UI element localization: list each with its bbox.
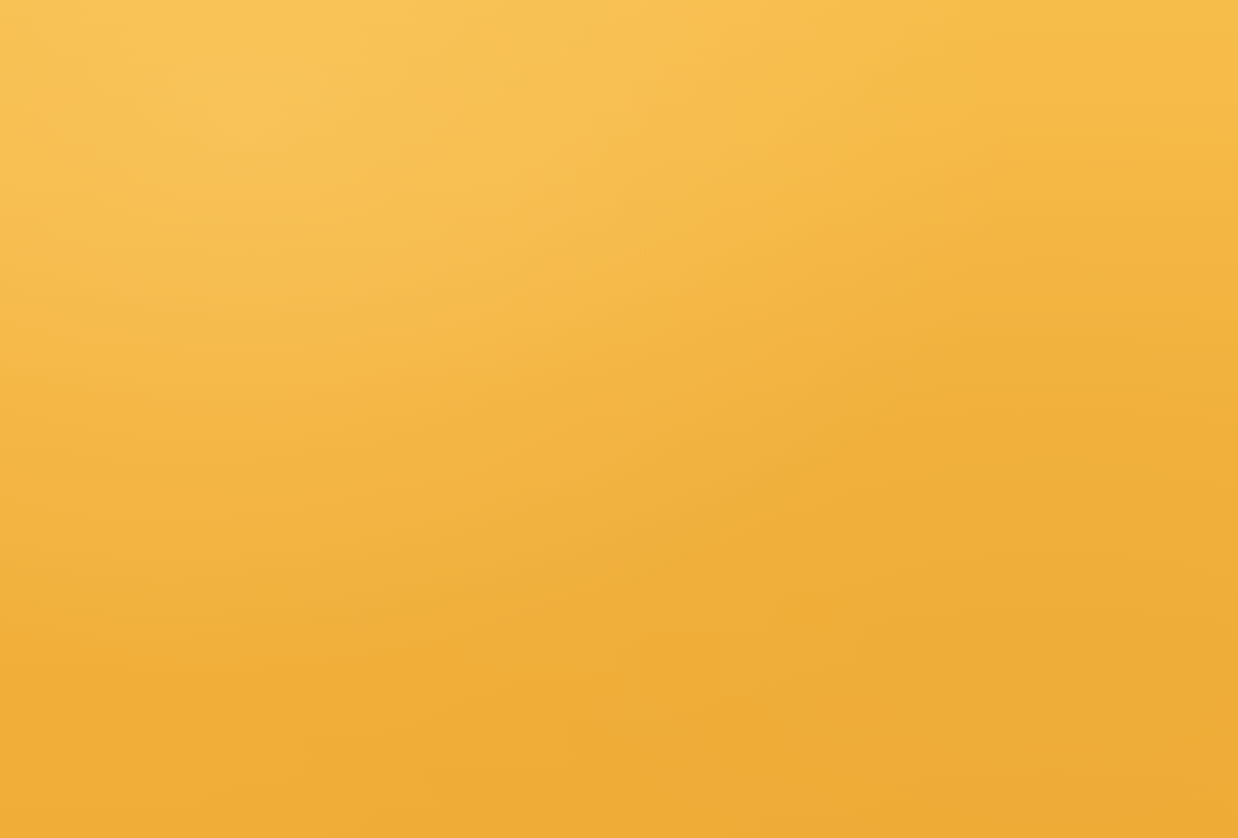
top-chart-plot-area [115,90,925,381]
passenger-travel-chart [0,0,1238,430]
air-emissions-chart [0,430,1238,838]
bottom-chart-plot-area [120,485,640,820]
